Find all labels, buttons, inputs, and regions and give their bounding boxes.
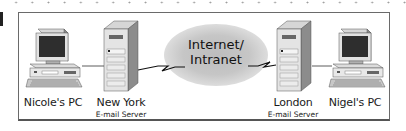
london-server-node — [275, 19, 315, 94]
nigel-pc-label: Nigel's PC — [322, 96, 388, 109]
desktop-computer-icon — [327, 25, 387, 91]
newyork-server-sublabel: E-mail Server — [90, 110, 152, 119]
tower-server-icon — [102, 19, 142, 94]
nigel-pc-node — [327, 25, 387, 91]
nicole-pc-node — [24, 25, 84, 91]
london-server-sublabel: E-mail Server — [262, 110, 324, 119]
desktop-computer-icon — [24, 25, 84, 91]
london-server-label: London — [262, 96, 324, 109]
tower-server-icon — [275, 19, 315, 94]
newyork-server-label: New York — [90, 96, 152, 109]
newyork-server-node — [102, 19, 142, 94]
nicole-pc-label: Nicole's PC — [20, 96, 86, 109]
